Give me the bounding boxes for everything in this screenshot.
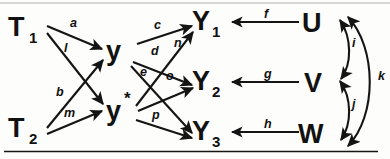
edge-label-g: g — [263, 67, 272, 81]
node-ystar-label: y — [106, 96, 121, 126]
edge-label-n: n — [174, 36, 182, 50]
path-diagram-figure: T 1 T 2 y y * Y 1 Y 2 Y 3 U V W a l b m … — [0, 0, 390, 159]
node-t1-subscript: 1 — [29, 29, 37, 46]
node-u-label: U — [302, 8, 322, 38]
edge-label-l: l — [64, 41, 68, 55]
node-y2-subscript: 2 — [212, 83, 220, 100]
node-y3-label: Y — [192, 116, 210, 146]
edge-group-structural — [131, 26, 193, 138]
edge-label-i: i — [352, 36, 356, 50]
edge-c-arrow — [137, 26, 192, 44]
edge-label-a: a — [70, 16, 77, 30]
edge-label-b: b — [56, 85, 64, 99]
diagram-canvas: T 1 T 2 y y * Y 1 Y 2 Y 3 U V W a l b m … — [0, 0, 390, 159]
node-y1-subscript: 1 — [212, 23, 220, 40]
node-w-label: W — [298, 119, 324, 149]
edge-label-p: p — [151, 108, 160, 122]
edge-label-j: j — [350, 97, 356, 111]
node-y3-subscript: 3 — [212, 133, 220, 150]
edge-i-curve — [340, 20, 349, 79]
edge-label-e: e — [140, 65, 147, 79]
node-v-label: V — [304, 68, 322, 98]
node-y1-label: Y — [192, 6, 210, 36]
edge-label-h: h — [264, 117, 272, 131]
edge-j-curve — [340, 81, 349, 140]
node-t2-subscript: 2 — [29, 130, 37, 147]
node-y2-label: Y — [192, 66, 210, 96]
node-ystar-asterisk: * — [124, 89, 131, 108]
edge-label-m: m — [64, 106, 75, 120]
edge-label-d: d — [151, 44, 159, 58]
edge-label-c: c — [154, 18, 161, 32]
edge-label-o: o — [166, 69, 174, 83]
node-t1-label: T — [8, 12, 25, 42]
node-t2-label: T — [8, 113, 25, 143]
edge-label-f: f — [264, 7, 270, 21]
node-y-label: y — [106, 36, 121, 66]
edge-label-k: k — [378, 69, 386, 83]
